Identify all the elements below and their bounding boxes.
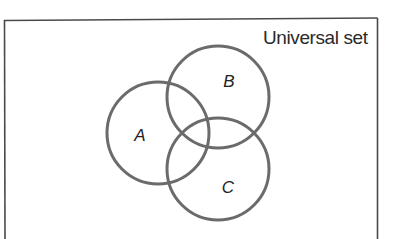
venn-diagram: Universal set A B C	[0, 0, 395, 239]
frame-left-edge	[5, 20, 6, 239]
universal-set-frame	[4, 18, 378, 239]
set-c-label: C	[222, 178, 235, 197]
set-a-circle	[107, 82, 209, 184]
universal-set-label: Universal set	[263, 27, 369, 48]
set-b-label: B	[223, 72, 234, 91]
frame-top-edge	[4, 18, 378, 21]
set-c-circle	[167, 118, 269, 220]
set-a-label: A	[133, 126, 145, 145]
